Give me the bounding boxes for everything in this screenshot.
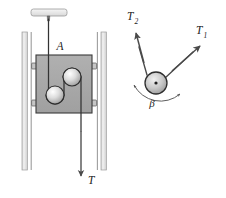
- guide-rail-left: [22, 32, 31, 170]
- label-tension-t2-subscript: 2: [135, 17, 139, 26]
- pulley-upper-right: [63, 68, 81, 86]
- label-tension-t2: T 2: [127, 10, 139, 26]
- label-tension-t1-subscript: 1: [204, 31, 208, 40]
- tension-t2-arrow: [136, 33, 144, 63]
- label-tension-t1: T 1: [196, 24, 207, 40]
- pulley-lower-left: [46, 86, 64, 104]
- guide-rail-right-bar: [101, 32, 106, 170]
- left-assembly: A T: [22, 9, 106, 186]
- tension-t-vector: T: [81, 131, 96, 186]
- tension-t1-vector: T 1: [172, 24, 207, 71]
- guide-rail-left-bar: [22, 32, 27, 170]
- tension-t2-vector: T 2: [127, 10, 144, 63]
- free-pulley-center-dot: [154, 81, 157, 84]
- ceiling-plate: [31, 9, 67, 16]
- free-pulley: [145, 72, 167, 94]
- label-tension-t: T: [88, 174, 96, 186]
- mechanics-figure: A T T 2: [0, 0, 226, 198]
- figure-canvas: A T T 2: [0, 0, 226, 198]
- label-block-a: A: [55, 40, 64, 52]
- label-angle-beta: β: [148, 97, 155, 109]
- right-free-body-diagram: T 2 T 1 β: [127, 10, 207, 109]
- guide-rail-right: [97, 32, 106, 170]
- tension-t1-arrow: [172, 46, 200, 71]
